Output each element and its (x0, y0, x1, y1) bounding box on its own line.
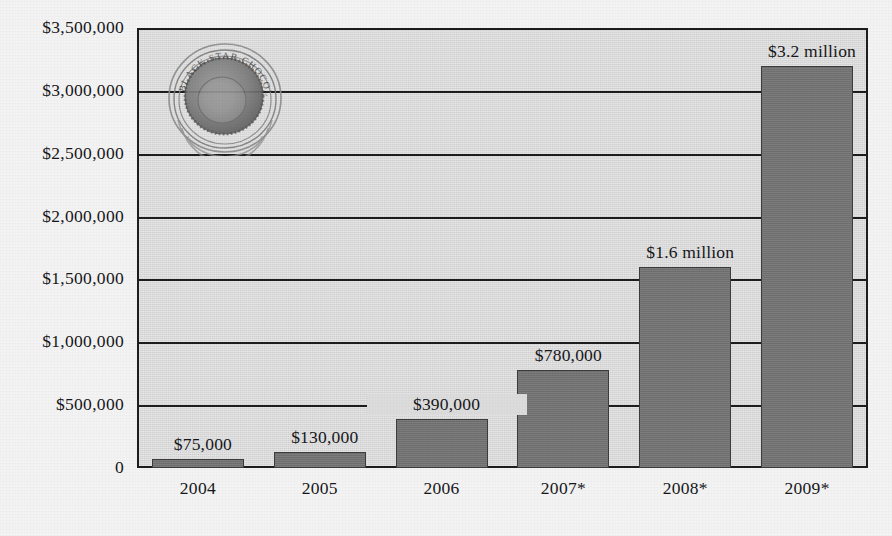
x-axis-tick-label: 2008* (625, 478, 745, 499)
y-axis-tick-label: 0 (0, 457, 124, 478)
y-axis-tick-label: $3,500,000 (0, 17, 124, 38)
x-axis-tick-label: 2009* (747, 478, 867, 499)
circular-ring-logo-icon: BLACK STAR CHOCOLATE (162, 38, 288, 156)
bar-value-label: $3.2 million (732, 41, 892, 62)
y-axis-tick-label: $2,000,000 (0, 206, 124, 227)
gridline (139, 217, 866, 219)
x-axis-tick-label: 2005 (260, 478, 380, 499)
x-axis-tick-label: 2006 (382, 478, 502, 499)
y-axis-tick-label: $3,000,000 (0, 80, 124, 101)
x-axis-tick-label: 2004 (138, 478, 258, 499)
bar-value-label: $1.6 million (610, 242, 770, 263)
bar-2005 (274, 452, 366, 468)
bar-2008 (639, 267, 731, 468)
gridline (139, 279, 866, 281)
x-axis-tick-label: 2007* (503, 478, 623, 499)
bar-value-label: $130,000 (245, 427, 405, 448)
bar-value-label: $390,000 (367, 394, 527, 415)
bar-2004 (152, 459, 244, 468)
bar-2006 (396, 419, 488, 468)
bar-2007 (517, 370, 609, 468)
y-axis-tick-label: $1,500,000 (0, 268, 124, 289)
bar-value-label: $780,000 (488, 345, 648, 366)
y-axis-tick-label: $1,000,000 (0, 331, 124, 352)
y-axis-tick-label: $500,000 (0, 394, 124, 415)
bar-2009 (761, 66, 853, 468)
bar-chart-figure: BLACK STAR CHOCOLATE $3,500,000$3,000,00… (0, 0, 892, 536)
y-axis-tick-label: $2,500,000 (0, 143, 124, 164)
